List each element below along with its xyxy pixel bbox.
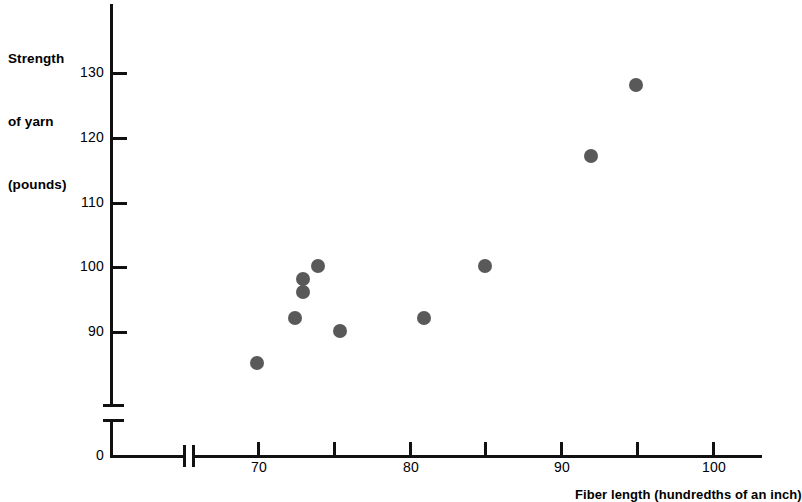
y-tick-label-110: 110 bbox=[60, 194, 104, 210]
y-tick-label-130: 130 bbox=[60, 64, 104, 80]
data-point bbox=[296, 272, 310, 286]
x-tick-100 bbox=[712, 442, 715, 455]
x-tick-85 bbox=[484, 442, 487, 455]
y-tick-120 bbox=[113, 137, 127, 140]
y-tick-100 bbox=[113, 266, 127, 269]
data-point bbox=[288, 311, 302, 325]
y-tick-label-90: 90 bbox=[60, 323, 104, 339]
data-point bbox=[417, 311, 431, 325]
data-point bbox=[250, 356, 264, 370]
x-tick-75 bbox=[333, 442, 336, 455]
x-tick-95 bbox=[636, 442, 639, 455]
y-tick-label-100: 100 bbox=[60, 258, 104, 274]
y-tick-130 bbox=[113, 72, 127, 75]
data-point bbox=[584, 149, 598, 163]
data-point bbox=[296, 285, 310, 299]
x-tick-label-100: 100 bbox=[689, 459, 739, 475]
x-axis-break-mark-right bbox=[192, 445, 195, 467]
x-tick-label-80: 80 bbox=[386, 459, 436, 475]
x-tick-70 bbox=[257, 442, 260, 455]
x-tick-90 bbox=[560, 442, 563, 455]
data-point bbox=[333, 324, 347, 338]
y-axis-line-lower bbox=[110, 420, 113, 458]
data-point bbox=[311, 259, 325, 273]
x-tick-label-90: 90 bbox=[537, 459, 587, 475]
y-axis-title: Strength of yarn (pounds) bbox=[8, 6, 67, 237]
y-axis-title-line-1: Strength bbox=[8, 48, 67, 69]
y-tick-label-120: 120 bbox=[60, 129, 104, 145]
x-axis-title: Fiber length (hundredths of an inch) bbox=[575, 487, 802, 502]
data-point bbox=[629, 78, 643, 92]
x-axis-break-mark-left bbox=[183, 445, 186, 467]
x-tick-80 bbox=[409, 442, 412, 455]
y-axis-title-line-2: of yarn bbox=[8, 111, 67, 132]
x-tick-label-70: 70 bbox=[234, 459, 284, 475]
data-point bbox=[478, 259, 492, 273]
x-axis-line-main bbox=[192, 455, 762, 458]
y-tick-90 bbox=[113, 331, 127, 334]
y-tick-110 bbox=[113, 202, 127, 205]
y-axis-line-upper bbox=[110, 4, 113, 406]
y-axis-origin-label: 0 bbox=[60, 447, 104, 463]
x-axis-line-stub bbox=[110, 455, 186, 458]
y-axis-break-mark-upper bbox=[103, 404, 124, 407]
y-axis-title-line-3: (pounds) bbox=[8, 174, 67, 195]
y-axis-break-mark-lower bbox=[103, 419, 124, 422]
